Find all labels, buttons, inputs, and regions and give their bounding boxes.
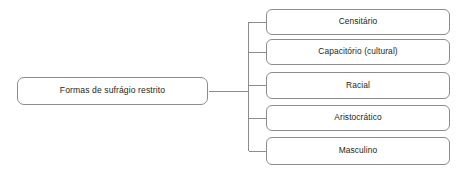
child-node-aristocratico[interactable]: Aristocrático — [266, 105, 450, 131]
child-node-label: Capacitório (cultural) — [318, 47, 397, 56]
child-node-label: Aristocrático — [334, 113, 381, 122]
child-node-masculino[interactable]: Masculino — [266, 137, 450, 165]
diagram-canvas: Formas de sufrágio restrito Censitário C… — [0, 0, 464, 176]
root-node[interactable]: Formas de sufrágio restrito — [17, 77, 208, 105]
child-node-label: Masculino — [339, 146, 378, 155]
child-node-capacitorio[interactable]: Capacitório (cultural) — [266, 39, 450, 65]
child-node-label: Racial — [346, 81, 370, 90]
root-node-label: Formas de sufrágio restrito — [60, 86, 165, 95]
child-node-label: Censitário — [339, 17, 378, 26]
child-node-racial[interactable]: Racial — [266, 72, 450, 99]
child-node-censitario[interactable]: Censitário — [266, 9, 450, 35]
